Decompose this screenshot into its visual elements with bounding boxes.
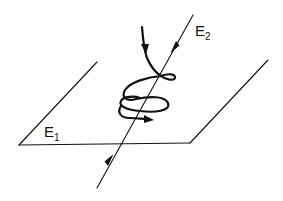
trajectory-loop xyxy=(161,74,175,79)
plane-right-edge xyxy=(190,60,268,143)
diagram-canvas: E 2 E 1 xyxy=(0,0,283,201)
label-e1: E 1 xyxy=(44,123,60,143)
helical-trajectory xyxy=(119,27,175,123)
field-line xyxy=(97,15,193,188)
label-e1-sub: 1 xyxy=(54,132,60,143)
label-e1-main: E xyxy=(44,123,54,140)
label-e2-sub: 2 xyxy=(205,31,211,42)
trajectory-arrow-right-icon xyxy=(144,115,154,123)
label-e2: E 2 xyxy=(195,22,211,42)
plane-bottom-edge xyxy=(19,143,190,145)
label-e2-main: E xyxy=(195,22,205,39)
trajectory-turn-1 xyxy=(124,76,169,112)
field-line-e2 xyxy=(97,15,193,188)
